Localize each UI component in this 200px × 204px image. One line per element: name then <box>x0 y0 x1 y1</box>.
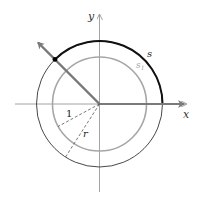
inner-radius-label: 1 <box>66 108 72 119</box>
y-axis-label: y <box>87 10 95 23</box>
outer-radius-label: r <box>83 128 89 139</box>
inner-arc-subscript: 1 <box>141 64 145 71</box>
unit-circle-diagram: y x s s1 1 r <box>0 0 200 204</box>
inner-radius-line <box>58 104 100 127</box>
outer-arc-label: s <box>147 48 152 59</box>
x-axis-label: x <box>183 108 190 121</box>
terminal-point <box>53 57 58 62</box>
terminal-ray <box>38 43 100 105</box>
inner-arc-label: s1 <box>136 60 144 71</box>
